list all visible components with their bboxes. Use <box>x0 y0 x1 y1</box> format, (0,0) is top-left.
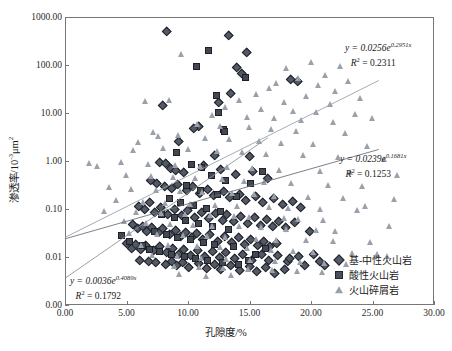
data-point-triangle <box>217 244 223 250</box>
data-point-triangle <box>222 234 228 240</box>
data-point-triangle <box>223 256 229 262</box>
data-point-square <box>187 236 194 243</box>
legend-item-triangle[interactable]: 火山碎屑岩 <box>332 282 428 297</box>
data-point-triangle <box>180 232 186 238</box>
data-point-triangle <box>298 117 304 123</box>
y-tick-mark <box>65 65 69 66</box>
data-point-triangle <box>285 205 291 211</box>
data-point-triangle <box>317 168 323 174</box>
data-point-triangle <box>194 121 200 127</box>
data-point-square <box>118 232 125 239</box>
data-point-triangle <box>322 72 328 78</box>
data-point-square <box>126 238 133 245</box>
data-point-triangle <box>153 187 159 193</box>
data-point-triangle <box>246 124 252 130</box>
data-point-triangle <box>138 242 144 248</box>
data-point-triangle <box>293 128 299 134</box>
data-point-triangle <box>174 253 180 259</box>
data-point-square <box>173 149 180 156</box>
eq-upper-line2: R2 = 0.2311 <box>345 54 412 69</box>
data-point-triangle <box>313 109 319 115</box>
data-point-triangle <box>300 152 306 158</box>
data-point-triangle <box>310 141 316 147</box>
data-point-triangle <box>330 238 336 244</box>
data-point-square <box>183 182 190 189</box>
eq-middle-line1: y = 0.0239e0.1681x <box>340 154 407 164</box>
data-point-square <box>213 92 220 99</box>
data-point-triangle <box>196 264 202 270</box>
data-point-triangle <box>86 160 92 166</box>
data-point-square <box>181 253 188 260</box>
annotation-equation-lower: y = 0.0036e0.4089x R2 = 0.1792 <box>70 272 137 302</box>
data-point-triangle <box>354 207 360 213</box>
data-point-triangle <box>106 184 112 190</box>
data-point-square <box>188 161 195 168</box>
data-point-square <box>193 63 200 70</box>
y-tick-mark <box>65 305 69 306</box>
legend-item-square[interactable]: 酸性火山岩 <box>332 267 428 282</box>
data-point-triangle <box>258 106 264 112</box>
data-point-triangle <box>271 193 277 199</box>
data-point-square <box>163 231 170 238</box>
eq-middle-line2: R2 = 0.1253 <box>340 165 407 180</box>
data-point-square <box>225 226 232 233</box>
data-point-triangle <box>145 161 151 167</box>
data-point-triangle <box>290 248 296 254</box>
data-point-triangle <box>332 88 338 94</box>
y-tick-mark <box>65 17 69 18</box>
data-point-triangle <box>305 194 311 200</box>
data-point-square <box>200 239 207 246</box>
data-point-triangle <box>251 191 257 197</box>
data-point-triangle <box>199 189 205 195</box>
data-point-triangle <box>321 260 327 266</box>
data-point-triangle <box>135 139 141 145</box>
data-point-triangle <box>154 231 160 237</box>
y-axis-title-text: 渗透率/10-3μm2 <box>9 137 20 204</box>
data-point-triangle <box>330 119 336 125</box>
data-point-triangle <box>219 176 225 182</box>
data-point-triangle <box>303 93 309 99</box>
data-point-triangle <box>278 140 284 146</box>
data-point-triangle <box>345 78 351 84</box>
data-point-triangle <box>244 114 250 120</box>
data-point-triangle <box>266 85 272 91</box>
triangle-icon <box>332 284 346 296</box>
data-point-square <box>204 257 211 264</box>
data-point-triangle <box>325 182 331 188</box>
data-point-triangle <box>198 255 204 261</box>
data-point-triangle <box>171 263 177 269</box>
data-point-triangle <box>190 222 196 228</box>
x-tick-label: 30.00 <box>404 308 452 319</box>
y-tick-mark <box>65 257 69 258</box>
data-point-triangle <box>176 271 182 277</box>
data-point-triangle <box>273 80 279 86</box>
data-point-triangle <box>258 224 264 230</box>
data-point-triangle <box>273 237 279 243</box>
x-axis-title: 孔隙度/% <box>0 324 452 339</box>
legend-item-label: 基-中性火山岩 <box>346 252 412 267</box>
data-point-triangle <box>310 249 316 255</box>
y-axis-title-wrap: 渗透率/10-3μm2 <box>2 100 24 240</box>
data-point-square <box>156 248 163 255</box>
data-point-triangle <box>182 211 188 217</box>
data-point-square <box>177 199 184 206</box>
data-point-triangle <box>359 183 365 189</box>
x-tick-label: 5.00 <box>97 308 157 319</box>
x-tick-label: 15.00 <box>220 308 280 319</box>
data-point-triangle <box>113 197 119 203</box>
data-point-triangle <box>187 201 193 207</box>
data-point-triangle <box>155 133 161 139</box>
data-point-triangle <box>197 163 203 169</box>
data-point-triangle <box>357 95 363 101</box>
data-point-triangle <box>249 165 255 171</box>
data-point-triangle <box>364 143 370 149</box>
data-point-square <box>217 208 224 215</box>
data-point-triangle <box>121 218 127 224</box>
data-point-triangle <box>295 216 301 222</box>
data-point-triangle <box>220 265 226 271</box>
data-point-square <box>259 168 266 175</box>
square-icon <box>332 269 346 281</box>
data-point-triangle <box>236 223 242 229</box>
data-point-triangle <box>369 115 375 121</box>
legend-item-diamond[interactable]: 基-中性火山岩 <box>332 252 428 267</box>
